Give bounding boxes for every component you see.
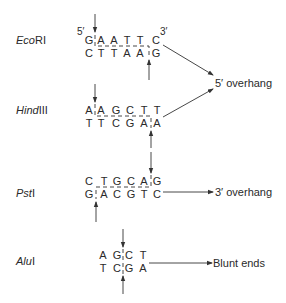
- base: G: [113, 249, 122, 261]
- base: T: [86, 117, 93, 129]
- base: C: [125, 249, 133, 261]
- enzyme-label-ecori: EcoRI: [16, 34, 46, 46]
- base: A: [100, 188, 108, 200]
- outcome-three-prime-overhang: 3′ overhang: [215, 186, 272, 198]
- base: T: [111, 47, 118, 59]
- base: A: [99, 249, 107, 261]
- base: G: [85, 34, 94, 46]
- base: C: [127, 175, 135, 187]
- restriction-enzyme-diagram: EcoRI 5′ 3′ G A A T T C C T T A A G 5′ o…: [0, 0, 286, 303]
- enzyme-alui: AluI A G C T T C G A: [15, 229, 212, 294]
- top-strand: C T G C A G: [85, 175, 161, 187]
- bottom-strand: T T C G A A: [86, 117, 162, 129]
- result-arrow-icon: [163, 89, 213, 117]
- base: G: [153, 175, 162, 187]
- base: C: [153, 188, 161, 200]
- enzyme-label-hindiii: HindIII: [16, 104, 48, 116]
- enzyme-label-psti: PstI: [16, 187, 35, 199]
- base: C: [112, 117, 120, 129]
- base: G: [152, 47, 161, 59]
- base: G: [85, 188, 94, 200]
- result-arrow-icon: [163, 45, 213, 75]
- enzyme-hindiii: HindIII A A G C T T T T C G A A: [16, 84, 213, 148]
- base: T: [141, 104, 148, 116]
- base: C: [152, 34, 160, 46]
- base: T: [101, 175, 108, 187]
- base: C: [85, 175, 93, 187]
- top-strand: G A A T T C: [85, 34, 160, 46]
- base: A: [136, 47, 144, 59]
- base: T: [140, 249, 147, 261]
- bottom-strand: T C G A: [100, 262, 148, 274]
- base: T: [98, 117, 105, 129]
- base: A: [97, 104, 105, 116]
- base: A: [85, 104, 93, 116]
- base: A: [123, 47, 131, 59]
- base: C: [85, 47, 93, 59]
- base: G: [113, 175, 122, 187]
- outcome-blunt-ends: Blunt ends: [213, 257, 265, 269]
- base: G: [127, 188, 136, 200]
- three-prime-label: 3′: [160, 26, 168, 37]
- base: C: [126, 104, 134, 116]
- base: G: [126, 117, 135, 129]
- base: A: [153, 117, 161, 129]
- base: A: [139, 262, 147, 274]
- base: C: [113, 188, 121, 200]
- enzyme-ecori: EcoRI 5′ 3′ G A A T T C C T T A A G: [16, 14, 213, 80]
- base: T: [100, 262, 107, 274]
- base: T: [137, 34, 144, 46]
- base: A: [140, 175, 148, 187]
- outcome-five-prime-overhang: 5′ overhang: [215, 77, 272, 89]
- base: T: [141, 188, 148, 200]
- base: T: [98, 47, 105, 59]
- base: A: [110, 34, 118, 46]
- base: G: [112, 104, 121, 116]
- base: T: [124, 34, 131, 46]
- base: T: [154, 104, 161, 116]
- five-prime-label: 5′: [77, 26, 85, 37]
- base: A: [97, 34, 105, 46]
- enzyme-label-alui: AluI: [15, 255, 35, 267]
- enzyme-psti: PstI C T G C A G G A C G T C: [16, 152, 213, 222]
- base: G: [125, 262, 134, 274]
- base: A: [140, 117, 148, 129]
- base: C: [113, 262, 121, 274]
- top-strand: A A G C T T: [85, 104, 160, 116]
